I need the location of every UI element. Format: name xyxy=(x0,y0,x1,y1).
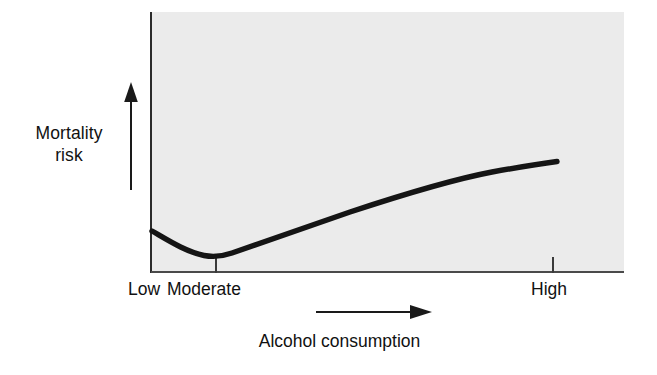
alcohol-mortality-chart: Mortality risk Low Moderate High Alcohol… xyxy=(0,0,657,375)
x-tick-label-high: High xyxy=(531,278,567,300)
y-axis-title: Mortality risk xyxy=(16,122,122,166)
arrow-right-icon xyxy=(316,300,432,324)
x-axis-title-text: Alcohol consumption xyxy=(259,331,420,351)
x-tick-label-low: Low xyxy=(128,278,160,300)
y-axis-title-line-2: risk xyxy=(16,144,122,166)
y-axis-title-line-1: Mortality xyxy=(16,122,122,144)
x-tick-mark-high xyxy=(552,257,554,273)
y-axis-line xyxy=(150,12,152,273)
x-axis-title: Alcohol consumption xyxy=(0,330,657,352)
arrow-up-icon xyxy=(118,82,144,190)
x-tick-mark-moderate xyxy=(215,257,217,273)
x-tick-label-moderate: Moderate xyxy=(167,278,241,300)
plot-area-background xyxy=(152,12,624,272)
